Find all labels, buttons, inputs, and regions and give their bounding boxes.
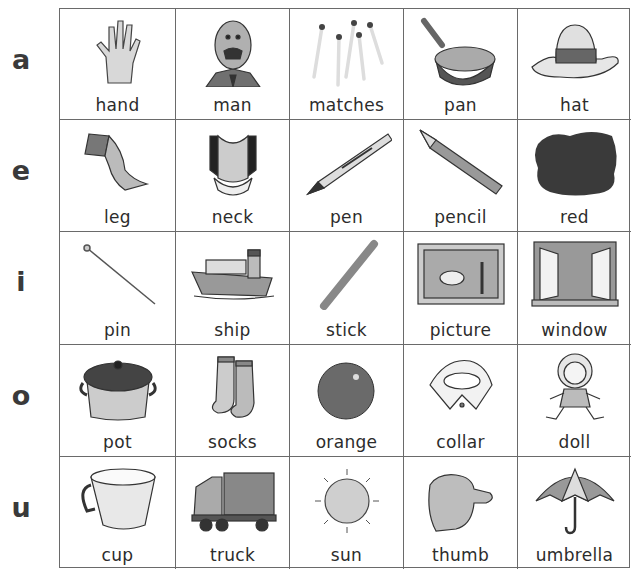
card-ship: ship [176,232,290,345]
leg-icon [73,126,163,198]
card-hat: hat [518,9,631,120]
man-icon [188,15,278,87]
word-label: man [176,95,289,115]
stick-icon [302,238,392,310]
red-blot-icon [530,126,620,198]
card-leg: leg [60,120,176,232]
orange-icon [302,351,392,423]
card-matches: matches [290,9,404,120]
word-label: pin [60,320,175,340]
vowel-label-i: i [6,266,36,297]
word-label: hat [518,95,631,115]
word-label: pencil [404,207,517,227]
card-doll: doll [518,345,631,457]
picture-word-grid: hand man matches pan hat leg neck pen pe… [59,8,630,568]
word-label: pan [404,95,517,115]
pencil-icon [416,126,506,198]
word-label: red [518,207,631,227]
card-collar: collar [404,345,518,457]
word-label: pen [290,207,403,227]
sun-icon [302,463,392,535]
card-pot: pot [60,345,176,457]
card-socks: socks [176,345,290,457]
card-picture: picture [404,232,518,345]
doll-icon [530,351,620,423]
card-man: man [176,9,290,120]
card-pen: pen [290,120,404,232]
word-label: ship [176,320,289,340]
word-label: sun [290,545,403,565]
card-pan: pan [404,9,518,120]
word-label: collar [404,432,517,452]
word-label: neck [176,207,289,227]
card-thumb: thumb [404,457,518,569]
neck-icon [188,126,278,198]
word-label: orange [290,432,403,452]
vowel-label-u: u [6,492,36,523]
word-label: stick [290,320,403,340]
card-sun: sun [290,457,404,569]
word-label: umbrella [518,545,631,565]
window-icon [530,238,620,310]
vowel-label-e: e [6,155,36,186]
word-label: pot [60,432,175,452]
cup-icon [73,463,163,535]
vowel-label-a: a [6,44,36,75]
hand-icon [73,15,163,87]
card-cup: cup [60,457,176,569]
word-label: truck [176,545,289,565]
word-label: socks [176,432,289,452]
hat-icon [530,15,620,87]
card-window: window [518,232,631,345]
matches-icon [302,15,392,87]
umbrella-icon [530,463,620,535]
card-truck: truck [176,457,290,569]
pan-icon [416,15,506,87]
collar-icon [416,351,506,423]
word-label: doll [518,432,631,452]
socks-icon [188,351,278,423]
thumb-icon [416,463,506,535]
word-label: picture [404,320,517,340]
ship-icon [188,238,278,310]
card-pin: pin [60,232,176,345]
vowel-label-o: o [6,380,36,411]
pen-icon [302,126,392,198]
pin-icon [73,238,163,310]
word-label: cup [60,545,175,565]
picture-icon [416,238,506,310]
card-pencil: pencil [404,120,518,232]
word-label: matches [290,95,403,115]
truck-icon [188,463,278,535]
card-orange: orange [290,345,404,457]
word-label: thumb [404,545,517,565]
word-label: hand [60,95,175,115]
card-red: red [518,120,631,232]
card-neck: neck [176,120,290,232]
word-label: window [518,320,631,340]
card-umbrella: umbrella [518,457,631,569]
card-stick: stick [290,232,404,345]
card-hand: hand [60,9,176,120]
pot-icon [73,351,163,423]
word-label: leg [60,207,175,227]
